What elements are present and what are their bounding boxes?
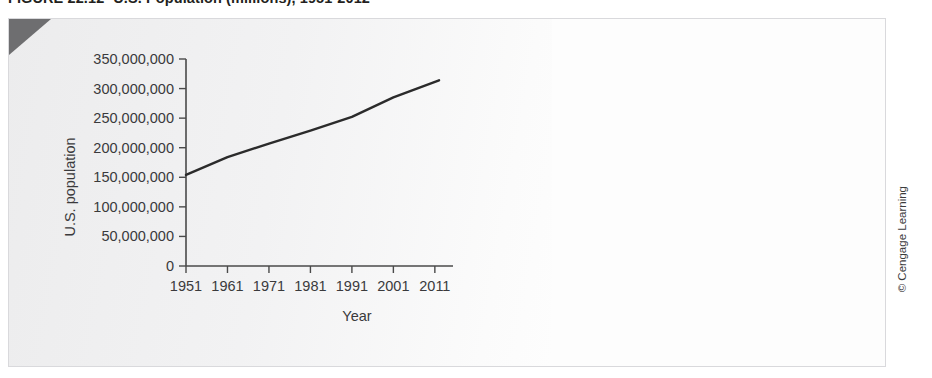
population-data-line [186, 80, 439, 175]
figure-panel: 050,000,000100,000,000150,000,000200,000… [8, 18, 886, 367]
y-axis-tick-label: 0 [166, 258, 174, 274]
x-axis-tick-label: 2011 [419, 278, 450, 294]
y-axis-tick-label: 150,000,000 [93, 169, 174, 185]
x-axis-ticks [186, 266, 435, 273]
y-axis-tick-label: 300,000,000 [93, 81, 174, 97]
chart-svg: 050,000,000100,000,000150,000,000200,000… [9, 19, 886, 367]
y-axis-tick-label: 250,000,000 [93, 110, 174, 126]
x-axis-title: Year [342, 308, 371, 324]
y-axis-tick-label: 100,000,000 [93, 199, 174, 215]
line-chart: 050,000,000100,000,000150,000,000200,000… [9, 19, 886, 367]
figure-caption-text: U.S. Population (millions), 1951-2012 [113, 0, 370, 6]
y-axis-tick-label: 200,000,000 [93, 140, 174, 156]
figure-caption-number: FIGURE 22.12 [8, 0, 104, 6]
y-axis-tick-label: 350,000,000 [93, 51, 174, 67]
x-axis-tick-label: 2001 [377, 278, 409, 294]
y-axis-tick-label: 50,000,000 [101, 228, 174, 244]
copyright-notice: © Cengage Learning [896, 186, 908, 292]
x-axis-tick-labels: 1951196119711981199120012011 [170, 278, 451, 294]
x-axis-tick-label: 1961 [211, 278, 243, 294]
y-axis-title: U.S. population [62, 137, 78, 236]
figure-caption: FIGURE 22.12U.S. Population (millions), … [8, 0, 370, 8]
y-axis-ticks [179, 59, 186, 266]
y-axis-tick-labels: 050,000,000100,000,000150,000,000200,000… [93, 51, 174, 274]
x-axis-tick-label: 1991 [336, 278, 368, 294]
x-axis-tick-label: 1971 [253, 278, 285, 294]
x-axis-tick-label: 1951 [170, 278, 202, 294]
x-axis-tick-label: 1981 [294, 278, 326, 294]
